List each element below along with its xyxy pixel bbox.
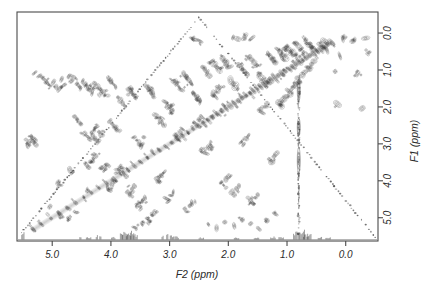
y-tick-label-2.0: 2.0 <box>382 100 393 115</box>
x-tick-label-1.0: 1.0 <box>280 249 294 260</box>
x-tick-label-0.0: 0.0 <box>339 249 353 260</box>
figure-background <box>0 0 429 288</box>
y-tick-label-4.0: 4.0 <box>382 173 393 187</box>
x-tick-label-4.0: 4.0 <box>104 249 118 260</box>
y-tick-label-3.0: 3.0 <box>382 136 393 150</box>
x-tick-label-2.0: 2.0 <box>220 249 235 260</box>
spectrum-canvas: 5.04.03.02.01.00.0 0.01.02.03.04.05.0 F2… <box>0 0 429 288</box>
y-tick-label-5.0: 5.0 <box>382 210 393 224</box>
y-axis-title: F1 (ppm) <box>408 120 420 163</box>
x-tick-label-5.0: 5.0 <box>45 249 59 260</box>
y-tick-label-1.0: 1.0 <box>382 63 393 77</box>
y-tick-label-0.0: 0.0 <box>382 26 393 40</box>
nmr-spectrum-figure: 5.04.03.02.01.00.0 0.01.02.03.04.05.0 F2… <box>0 0 429 288</box>
x-tick-label-3.0: 3.0 <box>163 249 177 260</box>
x-axis-title: F2 (ppm) <box>176 268 219 280</box>
